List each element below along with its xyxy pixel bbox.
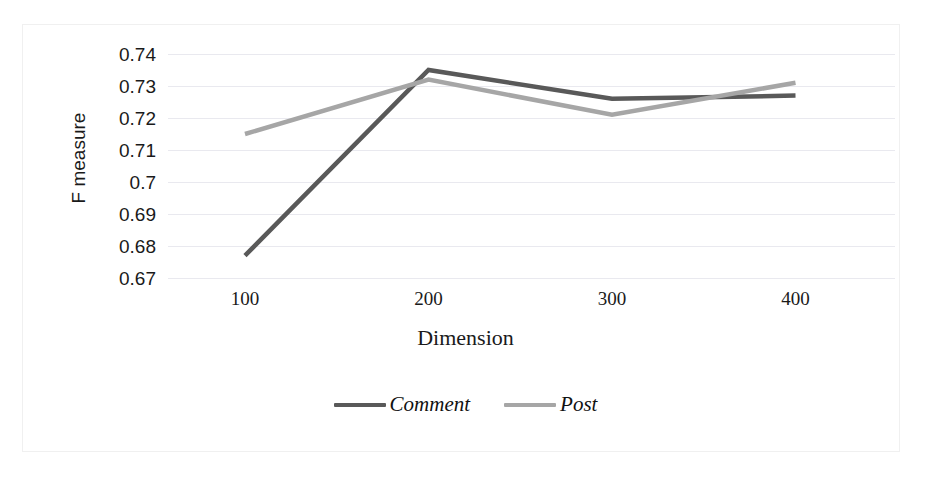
series-lines [168,54,895,278]
x-axis-tick-label: 200 [414,288,443,310]
y-axis-tick-label: 0.7 [82,173,156,192]
x-axis-tick-label: 300 [598,288,627,310]
y-axis-tick-label: 0.69 [82,205,156,224]
legend-entry: Comment [334,392,471,417]
legend-label: Post [560,392,597,417]
plot-area [168,54,895,278]
y-axis-tick-label: 0.72 [82,109,156,128]
legend-line-swatch [504,403,556,407]
legend-line-swatch [334,403,386,407]
legend-label: Comment [390,392,471,417]
gridline [168,278,895,279]
y-axis-tick-label: 0.71 [82,141,156,160]
y-axis-tick-label: 0.73 [82,77,156,96]
legend-entry: Post [504,392,597,417]
x-axis-title: Dimension [0,325,931,351]
x-axis-tick-labels: 100200300400 [168,288,895,316]
y-axis-tick-label: 0.74 [82,45,156,64]
x-axis-tick-label: 100 [231,288,260,310]
chart-figure: F measure 0.740.730.720.710.70.690.680.6… [0,0,931,479]
y-axis-tick-label: 0.68 [82,237,156,256]
y-axis-tick-label: 0.67 [82,269,156,288]
series-line [245,80,796,134]
x-axis-tick-label: 400 [781,288,810,310]
chart-legend: CommentPost [0,392,931,417]
